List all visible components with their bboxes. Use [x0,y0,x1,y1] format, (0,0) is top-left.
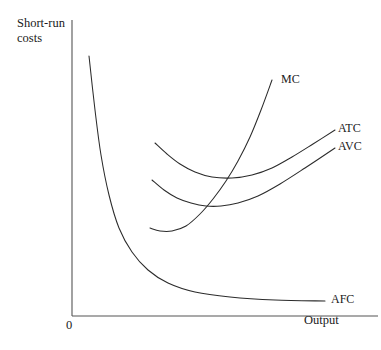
atc-curve [155,130,335,178]
x-axis-title: Output [304,313,339,328]
axes-group [72,20,378,316]
atc-curve-label: ATC [338,121,361,136]
y-axis-title-line1: Short-run [17,16,65,30]
mc-curve-label: MC [281,72,300,87]
figure-root: Short-runcosts Output 0 MC ATC AVC AFC [0,0,381,350]
afc-curve-label: AFC [331,292,354,307]
y-axis-title-line2: costs [17,31,42,45]
curves-group [89,56,335,301]
origin-label: 0 [66,318,72,333]
y-axis-title: Short-runcosts [17,16,65,47]
avc-curve-label: AVC [338,139,362,154]
cost-curves-chart [0,0,381,350]
